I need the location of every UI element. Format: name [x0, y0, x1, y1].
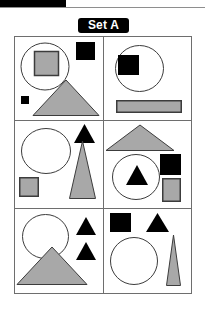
decorative-black-bar — [0, 0, 66, 7]
panel-middle-left — [15, 121, 103, 208]
large-gray-triangle — [33, 80, 99, 116]
gray-square-in-circle — [34, 51, 59, 76]
large-circle-outline — [110, 237, 158, 285]
black-triangle-top-right — [146, 213, 169, 232]
panel-middle-right — [104, 121, 191, 208]
black-square-top-left — [110, 213, 131, 232]
large-circle-outline — [21, 128, 71, 174]
large-gray-triangle — [17, 247, 87, 285]
panel-top-right — [104, 37, 191, 120]
black-triangle-upper-right — [76, 217, 96, 235]
black-square-in-circle — [118, 55, 139, 75]
small-black-square-bottom-left — [21, 96, 29, 104]
panel-top-left — [15, 37, 103, 120]
narrow-gray-triangle — [166, 235, 181, 286]
panel-bottom-left — [15, 209, 103, 293]
wide-gray-triangle — [106, 125, 174, 151]
panel-bottom-right — [104, 209, 191, 293]
tall-gray-triangle — [69, 141, 96, 199]
wide-gray-rectangle — [116, 100, 182, 113]
horizontal-rule — [0, 7, 205, 8]
figure-stage: Set A — [0, 0, 205, 311]
gray-rectangle-bottom-right — [162, 178, 181, 202]
black-square-right — [160, 154, 181, 175]
set-title-label: Set A — [78, 18, 129, 33]
black-triangle-in-circle — [126, 165, 148, 185]
gray-square-bottom-left — [19, 177, 39, 197]
black-square-top-right — [76, 42, 95, 60]
shape-grid — [14, 36, 192, 294]
